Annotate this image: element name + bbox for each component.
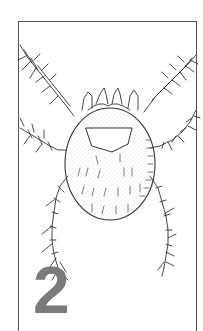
leg-front-left xyxy=(18,45,74,116)
leg-mid-right xyxy=(150,110,200,150)
mite-body xyxy=(65,108,155,220)
mouthparts xyxy=(82,88,138,110)
leg-front-right xyxy=(144,55,198,112)
figure-number: 2 xyxy=(33,262,68,318)
leg-mid-left xyxy=(20,118,66,152)
leg-rear-right xyxy=(150,176,176,276)
